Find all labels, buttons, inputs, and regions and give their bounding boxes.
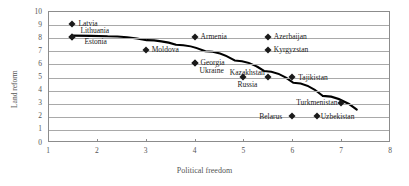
x-axis-tick-label: 1 <box>38 146 58 155</box>
y-axis-tick-label: 3 <box>22 98 42 107</box>
x-axis-tick-label: 6 <box>282 146 302 155</box>
gridline <box>49 78 389 79</box>
y-axis-tick-label: 2 <box>22 111 42 120</box>
y-axis-tick-label: 10 <box>22 7 42 16</box>
x-axis-title: Political freedom <box>0 166 409 175</box>
x-axis-tick-mark <box>195 139 196 142</box>
x-axis-tick-label: 4 <box>185 146 205 155</box>
data-point-label: Moldova <box>152 46 179 54</box>
y-axis-title-text: Land reform <box>10 96 19 108</box>
data-point-label: Lithuania <box>80 27 109 35</box>
gridline <box>49 91 389 92</box>
data-point-label: Estonia <box>84 38 107 46</box>
y-axis-tick-label: 9 <box>22 20 42 29</box>
gridline <box>49 51 389 52</box>
x-axis-tick-mark <box>292 139 293 142</box>
x-axis-tick-label: 5 <box>233 146 253 155</box>
data-point-label: Kyrgyzstan <box>274 46 308 54</box>
x-axis-tick-label: 3 <box>136 146 156 155</box>
data-point-label: Uzbekistan <box>321 113 355 121</box>
y-axis-title: Land reform <box>2 38 11 50</box>
x-axis-tick-mark <box>341 139 342 142</box>
gridline <box>49 130 389 131</box>
data-point-label: Russia <box>237 81 257 89</box>
data-point-label: Kazakhstan <box>230 69 265 77</box>
x-axis-tick-label: 2 <box>87 146 107 155</box>
x-axis-tick-label: 7 <box>331 146 351 155</box>
x-axis-tick-label: 8 <box>380 146 400 155</box>
data-point-label: Belarus <box>259 113 282 121</box>
data-point-label: Tajikistan <box>298 74 327 82</box>
data-point-label: Ukraine <box>200 67 224 75</box>
y-axis-tick-label: 7 <box>22 46 42 55</box>
x-axis-tick-mark <box>243 139 244 142</box>
y-axis-tick-label: 6 <box>22 59 42 68</box>
y-axis-tick-label: 5 <box>22 72 42 81</box>
y-axis-tick-label: 1 <box>22 124 42 133</box>
data-point-label: Turkmenistan <box>296 99 337 107</box>
y-axis-tick-label: 4 <box>22 85 42 94</box>
x-axis-tick-mark <box>146 139 147 142</box>
chart-container: Land reform Political freedom 0123456789… <box>0 0 409 186</box>
data-point-label: Azerbaijan <box>274 33 307 41</box>
data-point-label: Armenia <box>201 33 227 41</box>
y-axis-tick-label: 8 <box>22 33 42 42</box>
x-axis-tick-mark <box>97 139 98 142</box>
